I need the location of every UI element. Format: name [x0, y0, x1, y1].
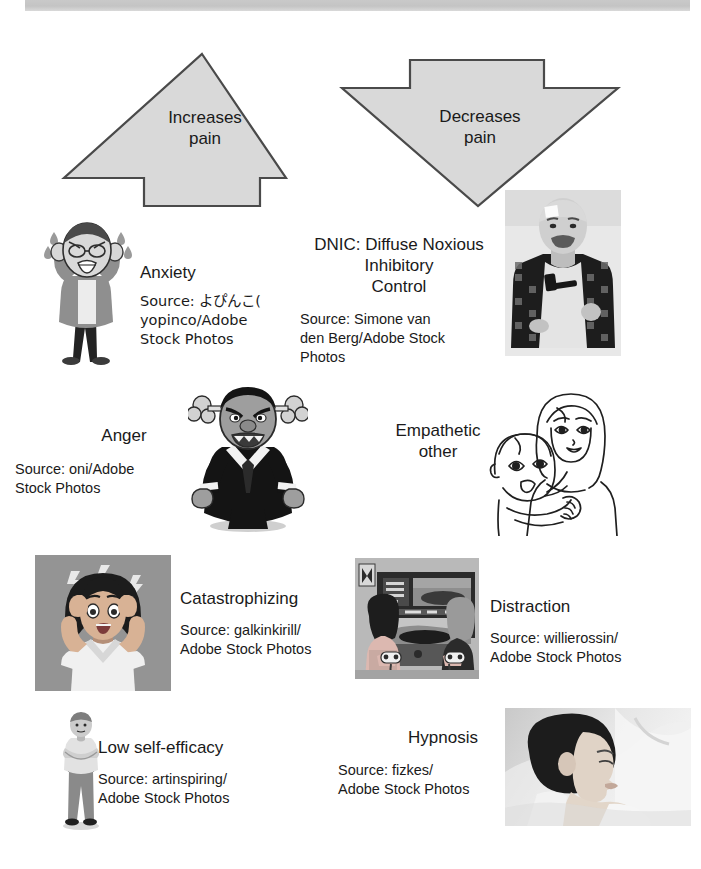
anger-caption: Anger Source: oni/Adobe Stock Photos [15, 425, 183, 498]
decreases-pain-label: Decreases pain [420, 106, 540, 148]
dnic-label: DNIC: Diffuse Noxious Inhibitory Control [300, 234, 498, 297]
angry-oni-in-suit-illustration [188, 385, 308, 533]
increases-pain-label: Increases pain [145, 107, 265, 149]
low-self-efficacy-label: Low self-efficacy [98, 737, 288, 758]
catastrophizing-label: Catastrophizing [180, 588, 360, 609]
man-with-hammer-photo [505, 190, 621, 356]
low-self-efficacy-caption: Low self-efficacy Source: artinspiring/ … [98, 737, 288, 808]
anger-label: Anger [15, 425, 183, 446]
dnic-caption: DNIC: Diffuse Noxious Inhibitory Control… [300, 234, 498, 367]
distraction-label: Distraction [490, 596, 670, 617]
woman-clutching-head-illustration [35, 555, 171, 691]
catastrophizing-caption: Catastrophizing Source: galkinkirill/ Ad… [180, 588, 360, 659]
anxiety-label: Anxiety [140, 262, 295, 283]
pain-modulation-figure: Increases pain Decreases pain [0, 0, 701, 869]
hypnosis-label: Hypnosis [338, 727, 508, 748]
empathetic-other-caption: Empathetic other [372, 420, 504, 462]
anxiety-caption: Anxiety Source: よぴんこ( yopinco/Adobe Stoc… [140, 262, 295, 349]
anger-source: Source: oni/Adobe Stock Photos [15, 460, 183, 498]
dnic-source: Source: Simone van den Berg/Adobe Stock … [300, 310, 498, 367]
relaxed-woman-photo [505, 708, 691, 826]
hypnosis-caption: Hypnosis Source: fizkes/ Adobe Stock Pho… [338, 727, 508, 799]
distraction-source: Source: willierossin/ Adobe Stock Photos [490, 629, 670, 667]
anxious-elderly-man-illustration [40, 210, 135, 365]
low-self-efficacy-source: Source: artinspiring/ Adobe Stock Photos [98, 770, 288, 808]
distraction-caption: Distraction Source: willierossin/ Adobe … [490, 596, 670, 667]
children-playing-video-games-illustration [355, 558, 479, 679]
catastrophizing-source: Source: galkinkirill/ Adobe Stock Photos [180, 621, 360, 659]
mother-holding-child-line-drawing [485, 388, 625, 536]
anxiety-source: Source: よぴんこ( yopinco/Adobe Stock Photos [140, 292, 295, 349]
empathetic-other-label: Empathetic other [372, 420, 504, 462]
hypnosis-source: Source: fizkes/ Adobe Stock Photos [338, 761, 508, 799]
